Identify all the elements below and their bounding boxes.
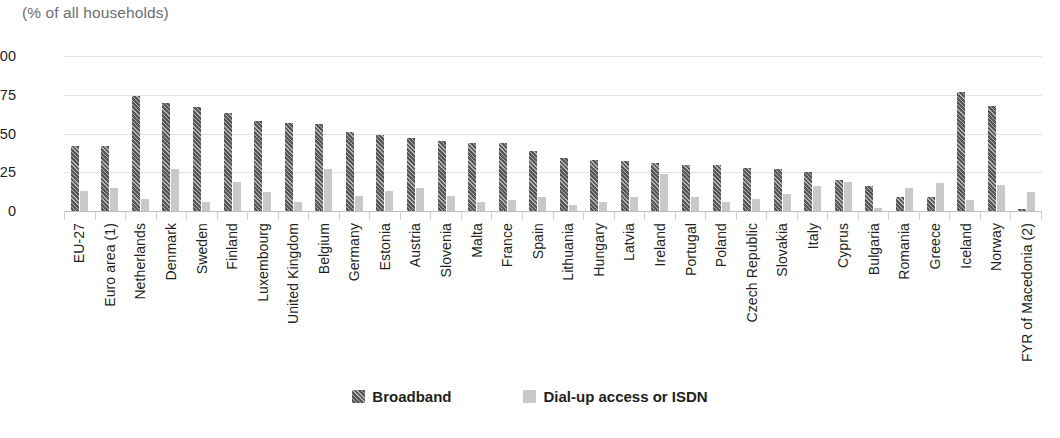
x-axis-label: Luxembourg bbox=[247, 221, 278, 371]
x-axis-tick bbox=[125, 211, 156, 220]
x-axis-tick bbox=[278, 211, 309, 220]
bar-broadband[interactable] bbox=[162, 103, 170, 212]
bar-broadband[interactable] bbox=[71, 146, 79, 211]
legend-swatch-broadband bbox=[352, 390, 365, 403]
x-axis-label-text: Austria bbox=[407, 223, 423, 267]
x-axis-label-text: France bbox=[499, 223, 515, 267]
bar-dialup[interactable] bbox=[1027, 192, 1035, 211]
chart-subtitle: (% of all households) bbox=[22, 4, 169, 22]
bar-group bbox=[156, 56, 187, 211]
legend-swatch-dialup bbox=[523, 390, 536, 403]
bar-group bbox=[125, 56, 156, 211]
bar-group bbox=[522, 56, 553, 211]
bar-dialup[interactable] bbox=[936, 183, 944, 211]
x-axis-label-text: Malta bbox=[469, 223, 485, 258]
bar-dialup[interactable] bbox=[783, 194, 791, 211]
x-axis-label: Slovenia bbox=[431, 221, 462, 371]
bar-dialup[interactable] bbox=[324, 169, 332, 211]
bar-broadband[interactable] bbox=[957, 92, 965, 211]
bar-dialup[interactable] bbox=[630, 197, 638, 211]
x-axis-label: FYR of Macedonia (2) bbox=[1011, 221, 1042, 371]
bar-dialup[interactable] bbox=[202, 202, 210, 211]
bar-broadband[interactable] bbox=[346, 132, 354, 211]
bar-dialup[interactable] bbox=[171, 169, 179, 211]
y-axis-tick-25: 25 bbox=[0, 164, 16, 180]
bar-dialup[interactable] bbox=[477, 202, 485, 211]
x-axis-tick bbox=[736, 211, 767, 220]
bar-group bbox=[889, 56, 920, 211]
bar-broadband[interactable] bbox=[621, 161, 629, 211]
bar-dialup[interactable] bbox=[355, 196, 363, 212]
bar-dialup[interactable] bbox=[80, 191, 88, 211]
bar-group bbox=[370, 56, 401, 211]
x-axis-label: Sweden bbox=[186, 221, 217, 371]
x-axis-tick bbox=[888, 211, 919, 220]
bar-dialup[interactable] bbox=[813, 186, 821, 211]
bar-dialup[interactable] bbox=[141, 199, 149, 211]
bar-broadband[interactable] bbox=[468, 143, 476, 211]
bar-group bbox=[859, 56, 890, 211]
bar-group bbox=[950, 56, 981, 211]
x-axis-tick bbox=[675, 211, 706, 220]
x-axis-label-text: Norway bbox=[988, 223, 1004, 271]
x-axis-tick bbox=[766, 211, 797, 220]
bar-broadband[interactable] bbox=[590, 160, 598, 211]
bar-broadband[interactable] bbox=[988, 106, 996, 211]
bar-dialup[interactable] bbox=[752, 199, 760, 211]
bar-dialup[interactable] bbox=[997, 185, 1005, 211]
bar-group bbox=[400, 56, 431, 211]
bar-dialup[interactable] bbox=[905, 188, 913, 211]
x-axis-label: Belgium bbox=[309, 221, 340, 371]
bar-broadband[interactable] bbox=[376, 135, 384, 211]
x-axis-label-text: Denmark bbox=[163, 223, 179, 281]
bar-dialup[interactable] bbox=[416, 188, 424, 211]
x-axis-tick bbox=[522, 211, 553, 220]
x-axis-label: Slovakia bbox=[767, 221, 798, 371]
bar-broadband[interactable] bbox=[865, 186, 873, 211]
bar-group bbox=[247, 56, 278, 211]
bar-broadband[interactable] bbox=[743, 168, 751, 211]
bar-dialup[interactable] bbox=[538, 197, 546, 211]
bar-broadband[interactable] bbox=[407, 138, 415, 211]
bar-broadband[interactable] bbox=[713, 165, 721, 212]
bar-dialup[interactable] bbox=[263, 192, 271, 211]
bar-dialup[interactable] bbox=[233, 182, 241, 211]
bar-broadband[interactable] bbox=[774, 169, 782, 211]
bar-broadband[interactable] bbox=[835, 180, 843, 211]
bar-dialup[interactable] bbox=[844, 182, 852, 211]
bar-dialup[interactable] bbox=[599, 202, 607, 211]
bar-broadband[interactable] bbox=[224, 113, 232, 211]
bar-broadband[interactable] bbox=[285, 123, 293, 211]
bar-broadband[interactable] bbox=[132, 96, 140, 211]
bar-dialup[interactable] bbox=[722, 202, 730, 211]
bar-broadband[interactable] bbox=[529, 151, 537, 211]
x-axis-label: Spain bbox=[522, 221, 553, 371]
bar-dialup[interactable] bbox=[385, 191, 393, 211]
bar-broadband[interactable] bbox=[315, 124, 323, 211]
bar-broadband[interactable] bbox=[254, 121, 262, 211]
bar-dialup[interactable] bbox=[110, 188, 118, 211]
bar-group bbox=[584, 56, 615, 211]
bar-dialup[interactable] bbox=[660, 174, 668, 211]
bar-broadband[interactable] bbox=[438, 141, 446, 211]
bar-broadband[interactable] bbox=[193, 107, 201, 211]
x-axis-label: Euro area (1) bbox=[95, 221, 126, 371]
bar-broadband[interactable] bbox=[499, 143, 507, 211]
bar-group bbox=[309, 56, 340, 211]
bar-dialup[interactable] bbox=[447, 196, 455, 212]
x-axis-label-text: Finland bbox=[224, 223, 240, 270]
chart-legend: Broadband Dial-up access or ISDN bbox=[0, 388, 1060, 405]
bar-dialup[interactable] bbox=[966, 200, 974, 211]
bar-broadband[interactable] bbox=[927, 197, 935, 211]
bar-broadband[interactable] bbox=[804, 172, 812, 211]
bar-dialup[interactable] bbox=[508, 200, 516, 211]
bar-dialup[interactable] bbox=[691, 197, 699, 211]
x-axis-tick bbox=[583, 211, 614, 220]
bar-broadband[interactable] bbox=[896, 197, 904, 211]
bar-dialup[interactable] bbox=[294, 202, 302, 211]
bar-broadband[interactable] bbox=[101, 146, 109, 211]
x-axis-label: Austria bbox=[400, 221, 431, 371]
bar-broadband[interactable] bbox=[682, 165, 690, 212]
bar-broadband[interactable] bbox=[560, 158, 568, 211]
bar-broadband[interactable] bbox=[651, 163, 659, 211]
